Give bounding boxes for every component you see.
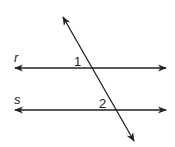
- line-s-label: s: [14, 93, 21, 106]
- angle-2-label: 2: [99, 97, 106, 110]
- transversal-line: [63, 17, 134, 141]
- parallel-lines-diagram: [0, 0, 175, 147]
- line-r-label: r: [14, 51, 18, 64]
- angle-1-label: 1: [74, 55, 81, 68]
